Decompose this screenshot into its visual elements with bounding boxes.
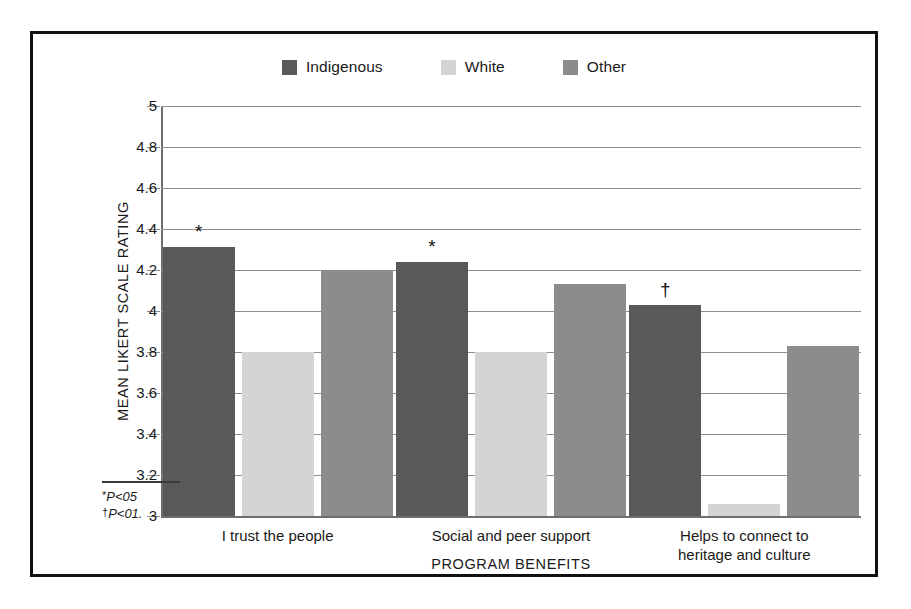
y-tick-label: 5 xyxy=(97,97,157,114)
legend-swatch-icon xyxy=(441,60,456,75)
bar-white-cat2[interactable] xyxy=(708,504,780,516)
legend-label: Indigenous xyxy=(306,58,383,76)
gridline xyxy=(161,311,861,312)
chart-legend: IndigenousWhiteOther xyxy=(33,58,875,76)
footnote-list: *P<05†P<01. xyxy=(102,488,180,524)
footnote-0: *P<05 xyxy=(102,488,180,506)
bar-indigenous-cat0[interactable] xyxy=(163,247,235,516)
bar-indigenous-cat1[interactable] xyxy=(396,262,468,516)
significance-marker: † xyxy=(650,280,680,299)
category-label-1: Social and peer support xyxy=(394,526,627,545)
footnotes-block: *P<05†P<01. xyxy=(102,481,180,523)
gridline xyxy=(161,270,861,271)
category-label-line: Helps to connect to xyxy=(628,526,861,545)
legend-item-other[interactable]: Other xyxy=(563,58,626,76)
y-tick-label: 4.6 xyxy=(97,179,157,196)
significance-marker: * xyxy=(417,237,447,256)
gridline xyxy=(161,106,861,107)
bar-other-cat0[interactable] xyxy=(321,270,393,516)
bar-other-cat2[interactable] xyxy=(787,346,859,516)
legend-item-indigenous[interactable]: Indigenous xyxy=(282,58,383,76)
y-tick-label: 3.4 xyxy=(97,425,157,442)
legend-swatch-icon xyxy=(563,60,578,75)
footnote-rule xyxy=(102,481,180,483)
significance-marker: * xyxy=(184,222,214,241)
bar-indigenous-cat2[interactable] xyxy=(629,305,701,516)
gridline xyxy=(161,188,861,189)
legend-label: Other xyxy=(587,58,626,76)
x-axis-baseline xyxy=(161,516,861,518)
y-tick-label: 4.8 xyxy=(97,138,157,155)
bar-white-cat1[interactable] xyxy=(475,352,547,516)
category-label-line: I trust the people xyxy=(161,526,394,545)
legend-item-white[interactable]: White xyxy=(441,58,505,76)
footnote-text: P<01. xyxy=(108,506,142,521)
category-label-line: heritage and culture xyxy=(628,545,861,564)
gridline xyxy=(161,147,861,148)
footnote-1: †P<01. xyxy=(102,505,180,523)
figure-frame: IndigenousWhiteOther 54.84.64.44.243.83.… xyxy=(30,31,878,577)
legend-swatch-icon xyxy=(282,60,297,75)
y-axis-title: MEAN LIKERT SCALE RATING xyxy=(115,201,131,421)
legend-label: White xyxy=(465,58,505,76)
bar-white-cat0[interactable] xyxy=(242,352,314,516)
footnote-text: P<05 xyxy=(106,489,137,504)
category-label-2: Helps to connect toheritage and culture xyxy=(628,526,861,564)
plot-area: 54.84.64.44.243.83.63.43.23 **† MEAN LIK… xyxy=(161,106,861,516)
category-label-line: Social and peer support xyxy=(394,526,627,545)
gridline xyxy=(161,229,861,230)
category-label-0: I trust the people xyxy=(161,526,394,545)
bar-other-cat1[interactable] xyxy=(554,284,626,516)
